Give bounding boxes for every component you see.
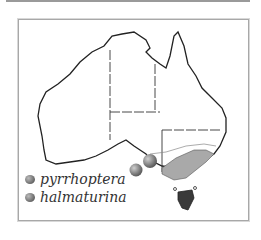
legend-label: pyrrhoptera: [40, 171, 126, 187]
tasmania: [178, 190, 194, 210]
legend-label: halmaturina: [40, 189, 127, 205]
australia-outline: [38, 32, 226, 168]
gray-sphere-icon: [25, 193, 35, 202]
legend: pyrrhoptera halmaturina: [25, 170, 127, 206]
halmaturina-marker: [130, 164, 143, 177]
legend-item-pyrrhoptera: pyrrhoptera: [25, 170, 127, 188]
pyrrhoptera-marker: [143, 154, 157, 168]
gray-sphere-icon: [25, 175, 35, 184]
legend-item-halmaturina: halmaturina: [25, 188, 127, 206]
